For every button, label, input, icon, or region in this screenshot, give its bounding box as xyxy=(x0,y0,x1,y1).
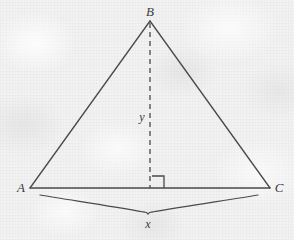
base-underbrace xyxy=(40,195,258,212)
base-underbrace-tip xyxy=(144,212,152,214)
altitude-label-y: y xyxy=(138,110,145,124)
vertex-label-c: C xyxy=(275,180,284,195)
base-label-x: x xyxy=(144,217,151,231)
triangle-side-ab xyxy=(30,21,150,188)
right-angle-marker xyxy=(152,176,164,188)
geometry-figure: B A C y x xyxy=(0,0,294,240)
vertex-label-a: A xyxy=(16,180,25,195)
triangle-side-bc xyxy=(150,21,270,188)
triangle-diagram-canvas: B A C y x xyxy=(0,0,294,240)
vertex-label-b: B xyxy=(146,4,154,19)
